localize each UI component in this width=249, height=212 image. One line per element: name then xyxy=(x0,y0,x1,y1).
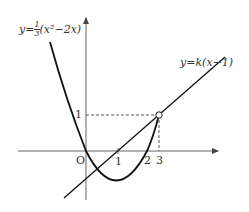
x-tick-label-3: 3 xyxy=(156,155,163,166)
x-tick-label-2: 2 xyxy=(144,155,151,166)
curve-equation-label: y=13(x²−2x) xyxy=(19,21,81,38)
origin-label: O xyxy=(76,155,85,166)
open-point xyxy=(156,112,162,118)
y-tick-label-1: 1 xyxy=(75,109,82,120)
line-kx xyxy=(64,57,225,198)
line-equation-label: y=k(x−1) xyxy=(180,57,233,68)
parabola-curve xyxy=(50,42,159,181)
x-tick-label-1: 1 xyxy=(115,156,122,167)
